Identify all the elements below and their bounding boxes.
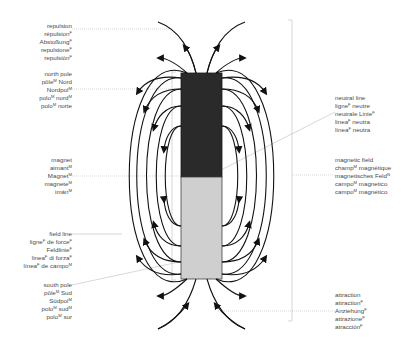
gender-marker: F xyxy=(69,238,72,243)
label-line: repulsiónF xyxy=(40,54,73,62)
gender-marker: M xyxy=(69,94,73,99)
bar-magnet xyxy=(181,73,222,279)
gender-marker: F xyxy=(69,54,72,59)
label-line: campoM magnético xyxy=(335,188,391,196)
gender-marker: F xyxy=(69,46,72,51)
label-field-line: field lineligneF de forceFFeldlinieFline… xyxy=(24,230,72,270)
gender-marker: F xyxy=(69,30,72,35)
label-line: ligneF de forceF xyxy=(24,238,72,246)
label-line: poloM norte xyxy=(39,102,72,110)
label-line: atracciónF xyxy=(335,323,367,331)
gender-marker: F xyxy=(372,110,375,115)
label-line: ligneF neutre xyxy=(335,102,375,110)
gender-marker: M xyxy=(69,262,73,267)
north-pole xyxy=(181,73,222,177)
label-line: field line xyxy=(24,230,72,238)
label-line: champM magnétique xyxy=(335,164,391,172)
label-repulsion: repulsionrépulsionFAbstoßungFrepulsioneF… xyxy=(40,22,73,62)
label-line: repulsion xyxy=(40,22,73,30)
label-line: magnetic field xyxy=(335,156,391,164)
gender-marker: F xyxy=(69,254,72,259)
gender-marker: F xyxy=(69,38,72,43)
field-loop-right-3 xyxy=(222,89,257,262)
label-magnetic-field: magnetic fieldchampM magnétiquemagnetisc… xyxy=(335,156,391,196)
label-neutral-line: neutral lineligneF neutreneutrale LinieF… xyxy=(335,94,375,134)
label-attraction: attractionattractionFAnziehungFattrazion… xyxy=(335,291,367,331)
gender-marker: F xyxy=(362,315,365,320)
label-magnet: magnetaimantMMagnetMmagneteMimánM xyxy=(44,156,72,196)
label-line: attractionF xyxy=(335,299,367,307)
label-line: líneaF de campoM xyxy=(24,262,72,270)
gender-marker: M xyxy=(69,188,73,193)
gender-marker: F xyxy=(360,299,363,304)
gender-marker: F xyxy=(360,323,363,328)
field-loop-left-3 xyxy=(147,89,182,262)
label-line: neutral line xyxy=(335,94,375,102)
label-south-pole: south polepôleM SudSüdpolMpoloM sudMpolo… xyxy=(42,281,72,321)
gender-marker: M xyxy=(69,305,73,310)
label-line: poloM sur xyxy=(42,313,72,321)
label-north-pole: north polepôleM NordNordpolMpoloM nordMp… xyxy=(39,70,72,110)
gender-marker: N xyxy=(387,172,390,177)
gender-marker: M xyxy=(69,297,73,302)
label-line: pôleM Nord xyxy=(39,78,72,86)
south-pole xyxy=(181,177,222,279)
label-line: répulsionF xyxy=(40,30,73,38)
label-line: pôleM Sud xyxy=(42,289,72,297)
field-loop-right-5 xyxy=(216,70,274,282)
label-line: líneaF neutra xyxy=(335,126,375,134)
field-line-bottom-right xyxy=(207,279,245,329)
gender-marker: F xyxy=(69,246,72,251)
gender-marker: M xyxy=(69,172,73,177)
gender-marker: M xyxy=(69,180,73,185)
field-line-bottom-left xyxy=(158,279,196,329)
label-line: imánM xyxy=(44,188,72,196)
gender-marker: M xyxy=(69,164,73,169)
field-loop-right-1 xyxy=(222,126,238,226)
gender-marker: F xyxy=(364,307,367,312)
gender-marker: M xyxy=(69,86,73,91)
